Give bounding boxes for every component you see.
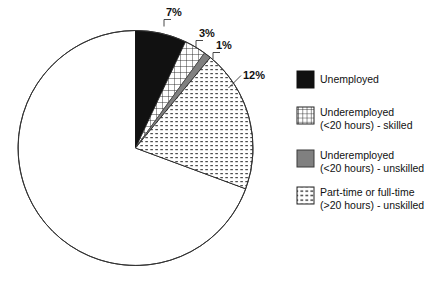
data-label-7pct: 7% [166,6,182,18]
legend-item-label-line1: Unemployed [320,73,379,85]
solid-gray-swatch [297,150,314,167]
chart-canvas: 7% 3% 1% 12% Unemployed Underemployed (<… [0,0,424,285]
legend-item-label-line1: Part-time or full-time [320,186,415,198]
legend-item-unemployed[interactable]: Unemployed [297,71,379,88]
data-label-1pct: 1% [216,39,232,51]
legend-item-label-line2: (<20 hours) - skilled [320,119,413,131]
data-label-3pct: 3% [199,27,215,39]
dotted-swatch [297,187,314,204]
pie-chart-figure: 7% 3% 1% 12% Unemployed Underemployed (<… [0,0,424,285]
leader-line-3pct [196,41,203,48]
legend-item-underemployed-skilled[interactable]: Underemployed (<20 hours) - skilled [297,106,413,131]
legend-item-label-line2: (<20 hours) - unskilled [320,162,424,174]
legend-item-part-or-full-time-unskilled[interactable]: Part-time or full-time (>20 hours) - uns… [297,186,424,211]
solid-black-swatch [297,71,314,88]
leader-line-1pct [213,53,220,60]
legend-item-underemployed-unskilled[interactable]: Underemployed (<20 hours) - unskilled [297,149,424,174]
legend-item-label-line1: Underemployed [320,106,394,118]
crosshatch-swatch [297,107,314,124]
chart-legend: Unemployed Underemployed (<20 hours) - s… [297,71,424,211]
legend-item-label-line2: (>20 hours) - unskilled [320,199,424,211]
data-label-12pct: 12% [243,69,265,81]
pie-slices [18,31,253,266]
legend-item-label-line1: Underemployed [320,149,394,161]
leader-line-7pct [164,20,171,27]
